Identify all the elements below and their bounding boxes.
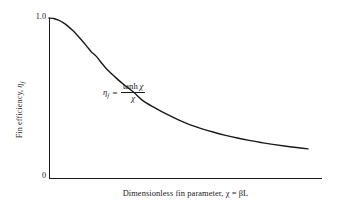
equation-denominator: χ <box>129 93 137 103</box>
fin-efficiency-curve <box>49 18 308 149</box>
y-tick-label-bottom: 0 <box>20 171 46 180</box>
plot-area <box>0 0 339 207</box>
y-axis-label-subscript: f <box>19 82 26 84</box>
equation-equals-sign: = <box>112 88 119 98</box>
equation-annotation: ηf = tanh χ χ <box>103 82 145 103</box>
equation-lhs: ηf <box>103 87 109 99</box>
y-axis-label-text: Fin efficiency, <box>15 88 24 139</box>
equation-numerator-chi: χ <box>139 81 143 91</box>
equation-tanh: tanh <box>123 81 138 91</box>
fin-efficiency-chart: 1.0 0 Fin efficiency, ηf Dimensionless f… <box>0 0 339 207</box>
x-axis-label: Dimensionless fin parameter, χ = βL <box>49 189 322 198</box>
equation-numerator: tanh χ <box>121 82 145 93</box>
equation-subscript: f <box>107 91 109 98</box>
y-tick-label-top: 1.0 <box>20 12 46 21</box>
y-axis-label: Fin efficiency, ηf <box>13 50 27 170</box>
y-axis-label-eta: η <box>15 83 24 87</box>
equation-fraction: tanh χ χ <box>121 82 145 103</box>
